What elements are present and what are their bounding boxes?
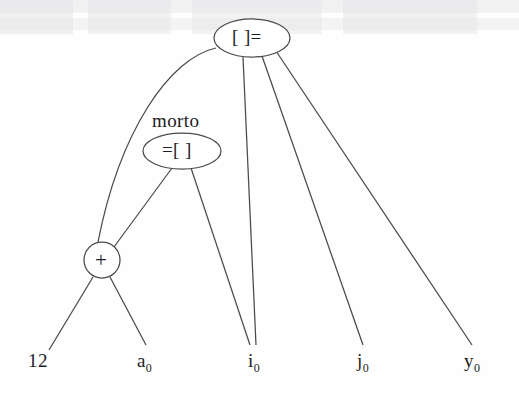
leaf-sub-j0: 0 <box>363 361 369 375</box>
edge-root-to-j0 <box>262 56 363 345</box>
leaf-base-12: 12 <box>28 350 48 371</box>
node-tag-morto: morto <box>152 110 199 132</box>
edge-root-to-y0 <box>276 51 472 345</box>
leaf-sub-i0: 0 <box>254 361 260 375</box>
diagram-canvas <box>0 0 519 394</box>
edge-root-to-i0 <box>243 57 256 345</box>
edge-assign-to-i0 <box>191 168 250 345</box>
node-label-root: [ ]= <box>232 26 262 48</box>
edge-assign-to-plus <box>114 168 172 247</box>
leaf-node-a0: a0 <box>137 350 152 376</box>
leaf-base-a0: a <box>137 350 146 371</box>
leaf-node-j0: j0 <box>357 350 369 376</box>
diagram-page: [ ]= morto =[ ] + 12 a0 i0 j0 y0 <box>0 0 519 394</box>
edge-layer <box>49 48 472 350</box>
leaf-node-i0: i0 <box>248 350 260 376</box>
leaf-node-12: 12 <box>28 350 48 376</box>
leaf-sub-y0: 0 <box>474 361 480 375</box>
leaf-sub-a0: 0 <box>146 361 152 375</box>
edge-plus-to-12 <box>49 277 93 350</box>
node-label-assign: =[ ] <box>162 139 192 161</box>
node-label-plus: + <box>95 248 107 273</box>
leaf-base-y0: y <box>464 350 474 371</box>
edge-plus-to-a0 <box>110 277 146 345</box>
leaf-node-y0: y0 <box>464 350 480 376</box>
